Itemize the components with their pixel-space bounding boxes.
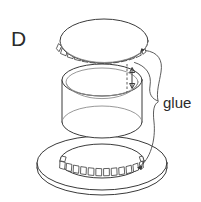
glue-label: glue: [163, 94, 191, 111]
cylinder-wall: [62, 64, 142, 138]
panel-letter-d: D: [11, 27, 26, 50]
base-tab: [73, 165, 79, 173]
base-tab: [66, 163, 72, 171]
base-tab: [119, 167, 125, 175]
glue-leader-upper: [146, 51, 162, 102]
base-tab: [60, 161, 66, 170]
base-annulus: [37, 136, 167, 195]
base-tab: [60, 156, 66, 162]
assembly-diagram: D glue: [0, 0, 201, 202]
base-tab: [111, 168, 117, 176]
figure-panel-d: D glue: [0, 0, 201, 202]
base-tab: [96, 168, 102, 176]
base-tab: [126, 165, 132, 174]
base-tab: [88, 168, 94, 176]
lid-disc: [60, 19, 148, 63]
base-tab: [81, 167, 87, 175]
base-tab: [104, 168, 110, 175]
